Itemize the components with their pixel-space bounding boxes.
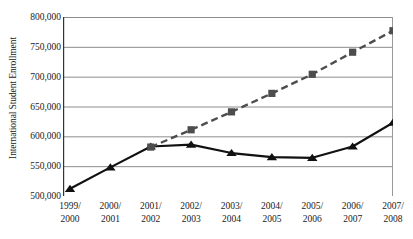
y-tick-label: 700,000 (15, 72, 61, 82)
x-axis-tick-labels: 1999/20002000/20012001/20022002/20032003… (63, 200, 393, 239)
series-line-projected-trend (151, 31, 393, 147)
x-tick-label: 2007/2008 (366, 200, 413, 225)
data-point-marker-square (147, 143, 154, 150)
y-tick-label: 650,000 (15, 102, 61, 112)
y-tick-label: 600,000 (15, 131, 61, 141)
data-point-marker-square (389, 27, 393, 34)
data-point-marker-square (349, 49, 356, 56)
y-tick-label: 750,000 (15, 42, 61, 52)
plot-area (63, 17, 393, 196)
y-tick-label: 550,000 (15, 161, 61, 171)
y-tick-label: 800,000 (15, 12, 61, 22)
data-point-marker-square (228, 108, 235, 115)
data-point-marker-square (309, 71, 316, 78)
chart-container: International Student Enrollment 800,000… (0, 0, 413, 239)
data-point-marker-square (268, 90, 275, 97)
chart-svg (63, 17, 393, 196)
x-tick-label-line: 2008 (366, 213, 413, 226)
data-point-marker-square (188, 126, 195, 133)
x-tick-label-line: 2007/ (366, 200, 413, 213)
